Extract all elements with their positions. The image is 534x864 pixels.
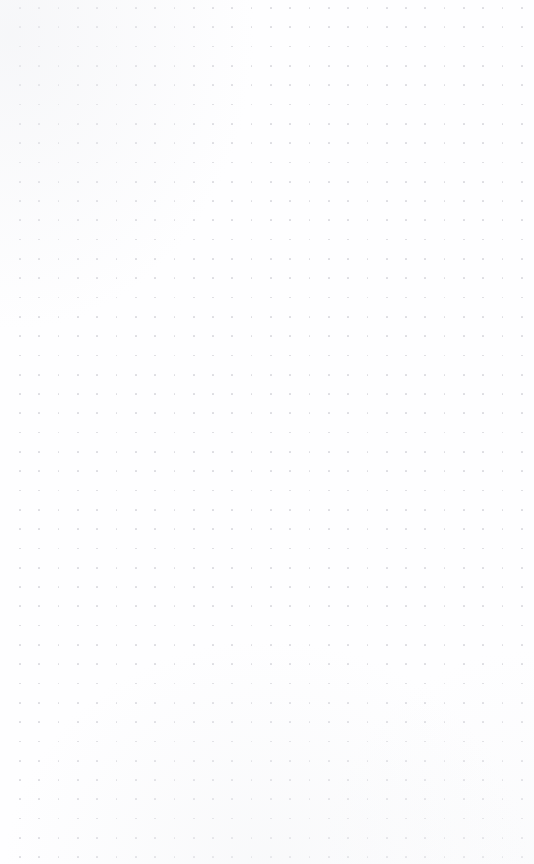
dot-grid-canvas[interactable] [0, 0, 534, 864]
canvas-content-area[interactable] [0, 0, 534, 864]
